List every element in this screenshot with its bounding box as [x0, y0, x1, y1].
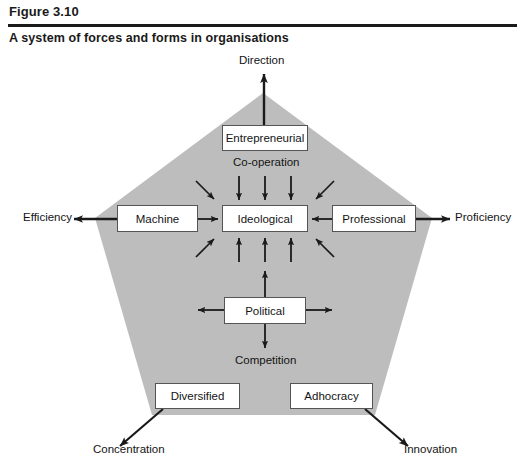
- label-concentration: Concentration: [93, 443, 165, 455]
- node-adhocracy[interactable]: Adhocracy: [290, 383, 373, 409]
- arrow-innovation: [365, 409, 408, 446]
- node-entrepreneurial-label: Entrepreneurial: [226, 132, 305, 144]
- node-machine[interactable]: Machine: [117, 205, 198, 232]
- node-professional-label: Professional: [342, 213, 405, 225]
- diagram-graphics: [0, 50, 525, 467]
- node-diversified-label: Diversified: [171, 390, 225, 402]
- label-direction: Direction: [239, 54, 284, 66]
- figure-title: A system of forces and forms in organisa…: [9, 31, 289, 45]
- label-proficiency: Proficiency: [455, 211, 511, 223]
- label-innovation: Innovation: [404, 443, 457, 455]
- node-ideological[interactable]: Ideological: [222, 205, 308, 232]
- diagram-canvas: Entrepreneurial Machine Ideological Prof…: [0, 50, 525, 467]
- header-divider: [8, 24, 517, 27]
- label-cooperation: Co-operation: [233, 156, 299, 168]
- node-machine-label: Machine: [136, 213, 179, 225]
- node-ideological-label: Ideological: [238, 213, 293, 225]
- node-adhocracy-label: Adhocracy: [304, 390, 358, 402]
- label-competition: Competition: [235, 354, 296, 366]
- label-efficiency: Efficiency: [23, 211, 72, 223]
- node-diversified[interactable]: Diversified: [155, 383, 240, 409]
- node-professional[interactable]: Professional: [332, 205, 416, 232]
- node-political[interactable]: Political: [224, 297, 306, 324]
- figure-number: Figure 3.10: [9, 4, 79, 19]
- arrow-concentration: [120, 409, 163, 446]
- node-political-label: Political: [245, 305, 285, 317]
- node-entrepreneurial[interactable]: Entrepreneurial: [222, 125, 308, 151]
